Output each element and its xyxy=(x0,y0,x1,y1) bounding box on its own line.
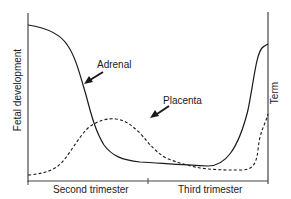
term-label: Term xyxy=(270,80,280,106)
placenta-label: Placenta xyxy=(163,96,202,106)
adrenal-label: Adrenal xyxy=(97,60,131,70)
third-trimester-label: Third trimester xyxy=(178,185,242,195)
second-trimester-label: Second trimester xyxy=(53,185,129,195)
adrenal-curve xyxy=(28,25,268,166)
placenta-curve xyxy=(28,114,268,175)
fetal-development-diagram xyxy=(0,0,291,199)
adrenal-arrow-shaft xyxy=(90,72,103,80)
placenta-arrow-shaft xyxy=(157,106,169,114)
placenta-arrow-head-icon xyxy=(150,110,159,118)
y-axis-label: Fetal development xyxy=(13,47,23,133)
adrenal-arrow-head-icon xyxy=(84,76,93,84)
